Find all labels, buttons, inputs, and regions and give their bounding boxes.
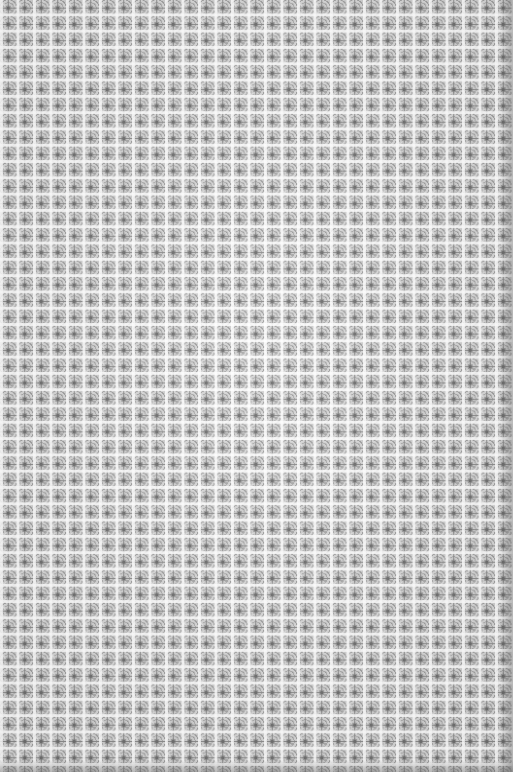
edge-shadow-overlay — [0, 0, 513, 772]
tile-texture — [0, 0, 513, 772]
texture-speckle-overlay — [0, 0, 513, 772]
